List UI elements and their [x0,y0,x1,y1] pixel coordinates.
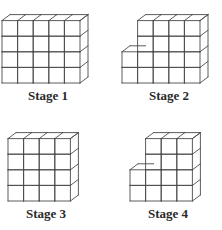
stage-4-label: Stage 4 [148,206,188,222]
stage-4-cube-stack [0,0,222,230]
